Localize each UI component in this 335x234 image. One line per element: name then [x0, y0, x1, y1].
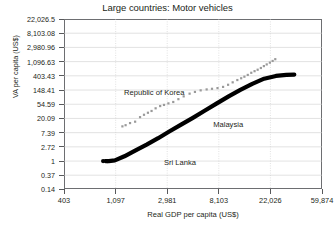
data-point [194, 91, 196, 93]
data-point [134, 121, 136, 123]
data-point [253, 70, 255, 72]
data-point [177, 98, 179, 100]
data-point [236, 79, 238, 81]
data-point [250, 72, 252, 74]
data-point [150, 110, 152, 112]
data-point [243, 76, 245, 78]
data-point [101, 159, 105, 163]
chart-container: Large countries: Motor vehicles VA per c… [0, 0, 335, 234]
data-point [163, 104, 165, 106]
data-series-layer [101, 58, 294, 163]
data-point [129, 122, 131, 124]
data-point [263, 65, 265, 67]
data-point [274, 58, 276, 60]
data-point [121, 125, 123, 127]
data-point [240, 77, 242, 79]
data-point [172, 101, 174, 103]
annotation-sri-lanka: Sri Lanka [164, 158, 196, 167]
data-point [211, 88, 213, 90]
annotation-malaysia: Malaysia [213, 120, 243, 129]
data-point [143, 114, 145, 116]
data-point [167, 102, 169, 104]
data-point [189, 93, 191, 95]
data-point [216, 87, 218, 89]
data-point [232, 81, 234, 83]
data-point [159, 105, 161, 107]
data-point [125, 124, 127, 126]
data-point [147, 112, 149, 114]
data-point [206, 88, 208, 90]
x-axis-label: Real GDP per capita (US$) [64, 210, 322, 219]
chart-overlay [0, 0, 335, 234]
data-point [266, 63, 268, 65]
data-point [227, 84, 229, 86]
data-point [222, 86, 224, 88]
data-point [139, 116, 141, 118]
data-point [247, 74, 249, 76]
data-point [200, 89, 202, 91]
annotation-republic-of-korea: Republic of Korea [124, 88, 184, 97]
data-point [272, 60, 274, 62]
data-point [105, 159, 109, 163]
data-point [257, 69, 259, 71]
data-point [155, 107, 157, 109]
data-point [269, 62, 271, 64]
data-point [260, 67, 262, 69]
